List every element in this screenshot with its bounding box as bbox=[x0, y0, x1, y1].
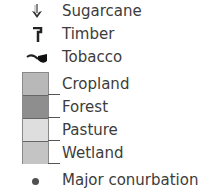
swatch-forest bbox=[23, 95, 48, 119]
divider-tick bbox=[48, 94, 60, 95]
legend-label-timber: Timber bbox=[62, 25, 114, 43]
legend-label-tobacco: Tobacco bbox=[62, 48, 122, 66]
divider-tick bbox=[48, 140, 60, 141]
legend-label-forest: Forest bbox=[62, 98, 108, 116]
legend-label-major-conurbation: Major conurbation bbox=[62, 171, 198, 189]
swatch-cropland bbox=[23, 73, 48, 95]
dot-icon bbox=[32, 178, 39, 185]
legend-label-cropland: Cropland bbox=[62, 75, 129, 93]
land-use-swatch-column bbox=[22, 72, 49, 164]
divider-tick bbox=[48, 163, 60, 164]
legend-label-sugarcane: Sugarcane bbox=[62, 2, 142, 20]
legend-label-pasture: Pasture bbox=[62, 121, 118, 139]
sugarcane-icon bbox=[30, 3, 44, 24]
divider-tick bbox=[48, 117, 60, 118]
legend-label-wetland: Wetland bbox=[62, 144, 123, 162]
swatch-wetland bbox=[23, 141, 48, 164]
swatch-pasture bbox=[23, 118, 48, 142]
axe-icon bbox=[32, 27, 44, 47]
pipe-icon bbox=[26, 50, 50, 69]
